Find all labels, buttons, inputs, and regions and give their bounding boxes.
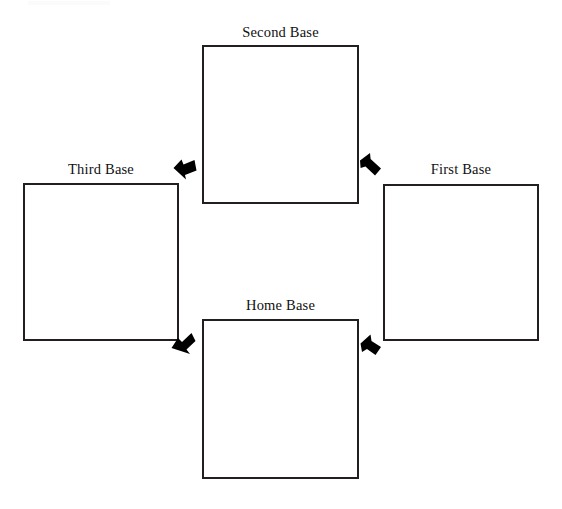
base-group-home: Home Base	[202, 298, 359, 479]
base-group-third: Third Base	[23, 162, 179, 341]
scan-artifact	[28, 1, 110, 5]
base-label-third: Third Base	[23, 162, 179, 177]
base-label-first: First Base	[383, 162, 539, 177]
base-box-first[interactable]	[383, 184, 539, 341]
arrow-up-left-icon-home-to-first	[359, 331, 385, 359]
base-label-second: Second Base	[202, 25, 359, 40]
arrow-down-left-icon-third-to-home	[170, 330, 196, 358]
diagram-canvas: Second Base Third Base First Base Home B…	[0, 0, 562, 509]
base-group-first: First Base	[383, 162, 539, 341]
base-box-third[interactable]	[23, 183, 179, 341]
base-box-second[interactable]	[202, 45, 359, 204]
arrow-up-left-icon-first-to-second	[358, 152, 384, 180]
base-box-home[interactable]	[202, 319, 359, 479]
base-group-second: Second Base	[202, 25, 359, 204]
base-label-home: Home Base	[202, 298, 359, 313]
arrow-down-left-icon-second-to-third	[172, 154, 198, 182]
